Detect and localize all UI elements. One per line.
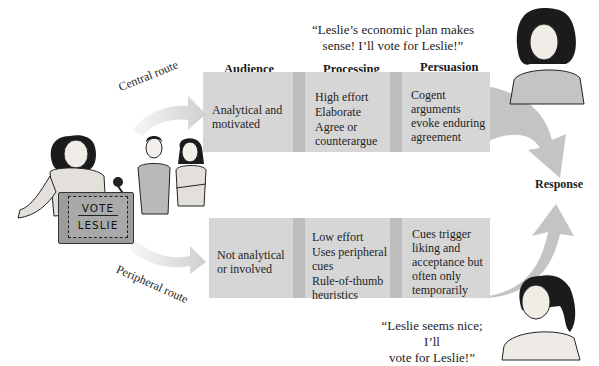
central-listener-illustration-icon	[500, 4, 590, 104]
cell-line: Cogent	[411, 88, 485, 102]
central-route-arrow-icon	[120, 90, 210, 140]
podium-sign-line: VOTE	[78, 202, 118, 216]
cell-line: Analytical and	[212, 103, 282, 117]
cell-line: counterargue	[315, 134, 377, 148]
separator	[390, 72, 402, 152]
cell-line: Agree or	[315, 120, 377, 134]
central-persuasion: Cogent arguments evoke enduring agreemen…	[411, 88, 485, 144]
peripheral-listener-illustration-icon	[500, 272, 590, 360]
peripheral-persuasion: Cues trigger liking and acceptance but o…	[412, 227, 483, 297]
audience-members-illustration-icon	[130, 134, 210, 220]
cell-line: motivated	[212, 117, 282, 131]
cell-line: Rule-of-thumb	[312, 274, 387, 288]
cell-line: liking and	[412, 241, 483, 255]
cell-line: Uses peripheral	[312, 245, 387, 259]
response-label: Response	[535, 177, 583, 192]
podium-sign-line: LESLIE	[69, 219, 127, 232]
cell-line: or involved	[217, 262, 285, 276]
central-processing: High effort Elaborate Agree or counterar…	[315, 90, 377, 148]
cell-line: temporarily	[412, 283, 483, 297]
cell-line: Low effort	[312, 230, 387, 244]
cell-line: agreement	[411, 130, 485, 144]
cell-line: evoke enduring	[411, 116, 485, 130]
peripheral-processing: Low effort Uses peripheral cues Rule-of-…	[312, 230, 387, 302]
cell-line: heuristics	[312, 288, 387, 302]
peripheral-route-quote: “Leslie seems nice; I’ll vote for Leslie…	[372, 318, 492, 366]
cell-line: High effort	[315, 90, 377, 104]
separator	[293, 218, 305, 298]
quote-line: vote for Leslie!”	[372, 350, 492, 366]
cell-line: often only	[412, 269, 483, 283]
podium-sign: VOTE LESLIE	[68, 196, 128, 238]
cell-line: Elaborate	[315, 105, 377, 119]
separator	[293, 72, 305, 152]
quote-line: “Leslie seems nice; I’ll	[372, 318, 492, 350]
central-audience: Analytical and motivated	[212, 103, 282, 131]
cell-line: Cues trigger	[412, 227, 483, 241]
cell-line: Not analytical	[217, 248, 285, 262]
cell-line: arguments	[411, 102, 485, 116]
separator	[390, 218, 402, 298]
peripheral-audience: Not analytical or involved	[217, 248, 285, 276]
cell-line: acceptance but	[412, 255, 483, 269]
cell-line: cues	[312, 259, 387, 273]
